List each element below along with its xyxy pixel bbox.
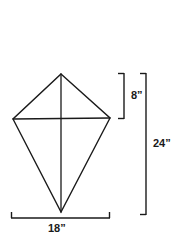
kite-geometry-figure: 8” 24” 18” xyxy=(0,0,180,239)
upper-height-bracket xyxy=(118,73,124,119)
horizontal-diagonal-line xyxy=(13,118,110,119)
total-width-bracket xyxy=(11,212,110,218)
upper-height-label: 8” xyxy=(131,89,143,101)
total-height-label: 24” xyxy=(153,137,171,149)
figure-canvas xyxy=(0,0,180,239)
total-width-label: 18” xyxy=(48,222,66,234)
kite-diagonals xyxy=(13,74,110,212)
